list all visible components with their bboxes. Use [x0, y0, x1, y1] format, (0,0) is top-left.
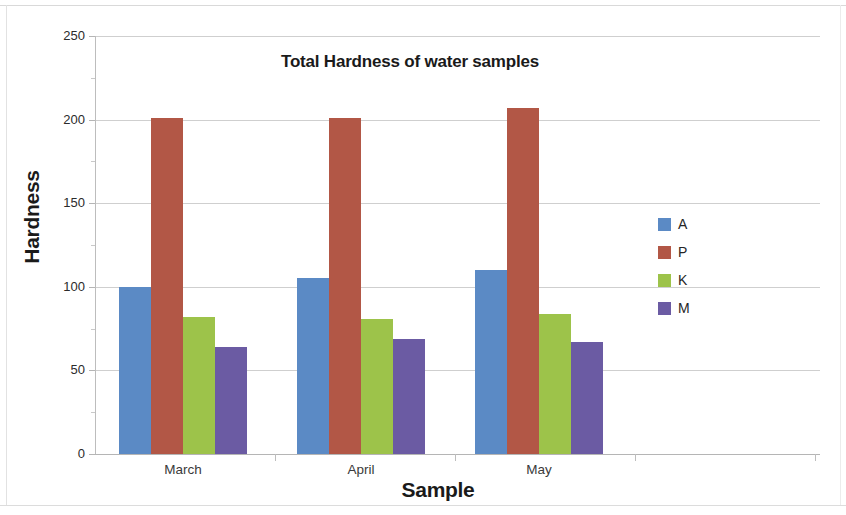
y-axis-tick-label: 100: [45, 280, 85, 293]
y-axis-tick-label: 250: [45, 29, 85, 42]
legend-label-M: M: [678, 301, 690, 315]
y-axis-tick-label: 0: [45, 447, 85, 460]
bar-A-May: [475, 270, 507, 454]
bar-M-April: [393, 339, 425, 454]
bar-A-March: [119, 287, 151, 454]
bar-chart: Total Hardness of water samples Hardness…: [0, 0, 846, 515]
y-axis-tick-label: 200: [45, 113, 85, 126]
legend-label-A: A: [678, 217, 687, 231]
legend-swatch-P: [658, 246, 671, 259]
legend-swatch-K: [658, 274, 671, 287]
bar-A-April: [297, 278, 329, 454]
legend-item-P[interactable]: P: [658, 238, 690, 266]
bar-M-March: [215, 347, 247, 454]
category-separator-tick: [275, 454, 276, 461]
x-axis-label-march: March: [133, 462, 233, 477]
legend-swatch-M: [658, 302, 671, 315]
x-axis-line: [95, 454, 820, 455]
bar-P-March: [151, 118, 183, 454]
x-axis-label-may: May: [489, 462, 589, 477]
chart-legend: APKM: [658, 210, 690, 322]
bar-K-April: [361, 319, 393, 454]
legend-item-A[interactable]: A: [658, 210, 690, 238]
legend-item-M[interactable]: M: [658, 294, 690, 322]
legend-label-P: P: [678, 245, 687, 259]
bar-P-May: [507, 108, 539, 454]
y-axis-tick-label: 150: [45, 196, 85, 209]
bar-P-April: [329, 118, 361, 454]
category-separator-tick: [635, 454, 636, 461]
category-separator-tick: [815, 454, 816, 461]
x-axis-title: Sample: [0, 478, 846, 502]
bar-M-May: [571, 342, 603, 454]
bars-layer: [95, 36, 820, 454]
legend-item-K[interactable]: K: [658, 266, 690, 294]
chart-screenshot: Total Hardness of water samples Hardness…: [0, 0, 846, 515]
category-separator-tick: [455, 454, 456, 461]
bar-K-May: [539, 314, 571, 454]
y-axis-title: Hardness: [20, 157, 44, 277]
y-tick-0: [89, 454, 95, 455]
legend-swatch-A: [658, 218, 671, 231]
legend-label-K: K: [678, 273, 687, 287]
x-axis-label-april: April: [311, 462, 411, 477]
bar-K-March: [183, 317, 215, 454]
y-axis-tick-label: 50: [45, 363, 85, 376]
